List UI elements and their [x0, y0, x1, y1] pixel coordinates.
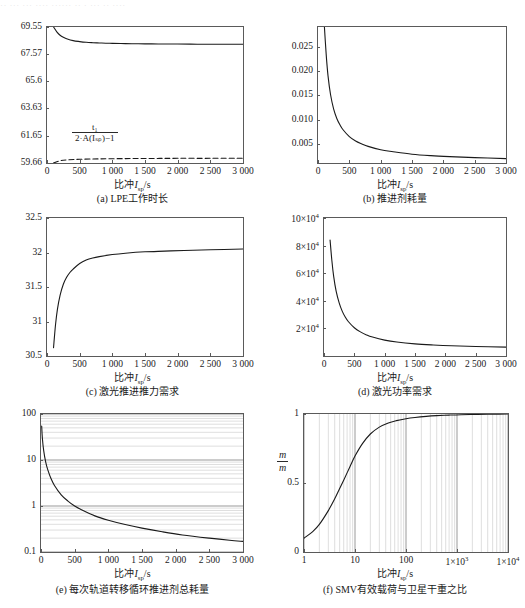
y-tick-mark [303, 483, 306, 484]
annotation-numerator: t₁ [72, 122, 118, 132]
y-tick-label: 67.57 [0, 49, 46, 59]
y-tick-mark [46, 108, 49, 109]
y-tick-label: 4×104 [265, 296, 323, 308]
y-tick-label: 2×104 [265, 323, 323, 335]
y-tick-label: 63.63 [0, 103, 46, 113]
x-tick-mark [508, 549, 509, 552]
y-tick-mark [46, 287, 49, 288]
x-tick-mark [178, 353, 179, 356]
subplot-a-annotation: t₁ 2·A(Iₛₚ)−1 [72, 122, 118, 144]
y-tick-mark [323, 246, 326, 247]
subplot-d-axes [323, 217, 507, 357]
y-tick-label: 31 [0, 317, 46, 327]
y-tick-label: 1 [265, 409, 303, 419]
y-tick-mark [317, 47, 320, 48]
figure-subplot-grid: 59.6661.6563.6365.667.5769.55 05001 0001… [0, 12, 525, 608]
x-tick-mark [243, 549, 244, 552]
subplot-c-caption: (c) 激光推进推力需求 [0, 383, 265, 398]
subplot-e-caption: (e) 每次轨道转移循环推进剂总耗量 [0, 581, 265, 596]
x-tick-mark [385, 353, 386, 356]
y-tick-mark [46, 54, 49, 55]
subplot-f: 00.51 1101001×1031×104 m m 比冲Isp/s (f) S… [265, 397, 525, 608]
subplot-e: 0.1110100 05001 0001 5002 0002 5003 000 … [0, 397, 265, 608]
subplot-f-xaxis-title: 比冲Isp/s [265, 565, 525, 581]
y-tick-label: 100 [0, 409, 40, 419]
annotation-denominator: 2·A(Iₛₚ)−1 [72, 132, 118, 143]
y-tick-mark [46, 322, 49, 323]
subplot-c-canvas [47, 218, 243, 356]
y-tick-mark [40, 506, 43, 507]
y-tick-label: 8×104 [265, 241, 323, 253]
subplot-d: 2×1044×1046×1048×10410×104 05001 0001 50… [265, 203, 525, 397]
subplot-f-caption: (f) SMV有效载荷与卫星干重之比 [265, 581, 525, 596]
x-tick-mark [506, 160, 507, 163]
x-tick-mark [41, 549, 42, 552]
y-tick-mark [317, 71, 320, 72]
subplot-d-caption: (d) 激光功率需求 [265, 383, 525, 398]
x-tick-mark [145, 353, 146, 356]
subplot-b-canvas [318, 27, 506, 163]
x-tick-mark [457, 549, 458, 552]
y-tick-label: 10 [0, 455, 40, 465]
y-tick-mark [323, 218, 326, 219]
y-tick-mark [46, 81, 49, 82]
x-tick-mark [178, 160, 179, 163]
y-tick-mark [323, 328, 326, 329]
y-tick-label: 0.5 [265, 478, 303, 488]
y-tick-mark [46, 27, 49, 28]
x-tick-mark [381, 160, 382, 163]
page-top-text-remnant: ·· ··· ··· ···· ······ ·· · ··· ·· ···· [0, 0, 525, 12]
subplot-d-plot: 2×1044×1046×1048×10410×104 05001 0001 50… [265, 203, 525, 397]
y-tick-mark [323, 273, 326, 274]
x-tick-mark [475, 160, 476, 163]
x-tick-mark [412, 160, 413, 163]
subplot-f-plot: 00.51 1101001×1031×104 m m 比冲Isp/s (f) S… [265, 397, 525, 608]
y-tick-label: 0.005 [265, 139, 317, 149]
x-tick-mark [415, 353, 416, 356]
y-tick-label: 0.015 [265, 90, 317, 100]
y-tick-mark [46, 163, 49, 164]
x-tick-mark [210, 353, 211, 356]
x-tick-mark [47, 353, 48, 356]
y-tick-label: 1 [0, 501, 40, 511]
x-tick-mark [210, 160, 211, 163]
y-tick-mark [46, 136, 49, 137]
x-tick-mark [47, 160, 48, 163]
x-tick-mark [176, 549, 177, 552]
y-tick-label: 69.55 [0, 22, 46, 32]
subplot-c-axes [46, 217, 244, 357]
y-tick-mark [317, 120, 320, 121]
y-tick-mark [46, 218, 49, 219]
yaxis-numerator: m [277, 449, 288, 461]
x-tick-mark [349, 160, 350, 163]
y-tick-mark [303, 414, 306, 415]
subplot-e-xaxis-title: 比冲Isp/s [0, 565, 265, 581]
subplot-b-axes [317, 26, 507, 164]
yaxis-denominator: m [277, 461, 288, 474]
x-tick-mark [80, 353, 81, 356]
y-tick-mark [40, 414, 43, 415]
y-tick-label: 65.6 [0, 76, 46, 86]
y-tick-label: 32 [0, 248, 46, 258]
subplot-a: 59.6661.6563.6365.667.5769.55 05001 0001… [0, 12, 265, 203]
y-tick-label: 61.65 [0, 131, 46, 141]
subplot-e-plot: 0.1110100 05001 0001 5002 0002 5003 000 … [0, 397, 265, 608]
y-tick-label: 0.025 [265, 42, 317, 52]
x-tick-mark [443, 160, 444, 163]
y-tick-mark [303, 552, 306, 553]
y-tick-mark [317, 144, 320, 145]
x-tick-mark [355, 549, 356, 552]
x-tick-mark [324, 353, 325, 356]
x-tick-mark [406, 549, 407, 552]
subplot-d-canvas [324, 218, 506, 356]
y-tick-label: 0.010 [265, 115, 317, 125]
y-tick-mark [40, 460, 43, 461]
x-tick-mark [476, 353, 477, 356]
x-tick-mark [145, 160, 146, 163]
subplot-f-yaxis-label: m m [277, 449, 288, 473]
subplot-a-plot: 59.6661.6563.6365.667.5769.55 05001 0001… [0, 12, 265, 203]
y-tick-label: 0.020 [265, 66, 317, 76]
y-tick-mark [40, 552, 43, 553]
subplot-c-plot: 30.53131.53232.5 05001 0001 5002 0002 50… [0, 203, 265, 397]
y-tick-mark [46, 356, 49, 357]
